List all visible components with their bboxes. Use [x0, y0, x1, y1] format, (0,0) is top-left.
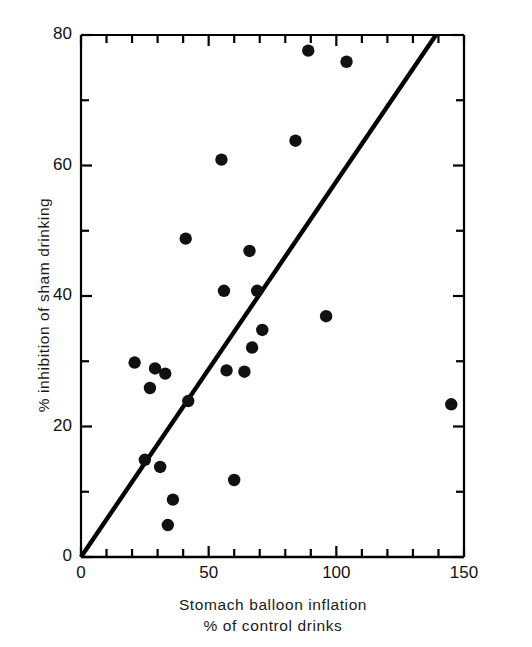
- data-point: [228, 474, 240, 486]
- data-point: [302, 44, 314, 56]
- x-tick-label: 150: [434, 563, 494, 583]
- data-point: [215, 153, 227, 165]
- data-point: [220, 364, 232, 376]
- data-point: [159, 367, 171, 379]
- data-point: [251, 285, 263, 297]
- data-point: [179, 232, 191, 244]
- y-tick-label: 80: [30, 24, 72, 44]
- x-axis-title-line2: % of control drinks: [81, 615, 465, 636]
- axes-frame: [81, 35, 464, 557]
- scatter-plot-figure: 806040200 050100150 % inhibition of sham…: [0, 0, 532, 647]
- data-point: [243, 245, 255, 257]
- data-point: [139, 454, 151, 466]
- data-point: [218, 285, 230, 297]
- data-point: [320, 310, 332, 322]
- data-point: [144, 382, 156, 394]
- data-point: [238, 365, 250, 377]
- x-axis-title: Stomach balloon inflation % of control d…: [81, 594, 465, 636]
- data-point: [256, 324, 268, 336]
- y-axis-title: % inhibition of sham drinking: [35, 175, 53, 435]
- data-point: [128, 356, 140, 368]
- x-tick-label: 50: [179, 563, 239, 583]
- data-point: [246, 341, 258, 353]
- plot-canvas: [0, 0, 532, 647]
- data-point: [167, 493, 179, 505]
- data-point: [162, 519, 174, 531]
- x-tick-label: 0: [51, 563, 111, 583]
- data-point: [445, 398, 457, 410]
- tick-marks: [81, 35, 464, 557]
- data-point: [340, 56, 352, 68]
- data-point: [289, 135, 301, 147]
- x-tick-label: 100: [306, 563, 366, 583]
- y-tick-label: 60: [30, 155, 72, 175]
- data-points: [128, 44, 457, 531]
- data-point: [154, 461, 166, 473]
- y-axis-title-text: % inhibition of sham drinking: [35, 198, 52, 413]
- data-point: [182, 395, 194, 407]
- x-axis-title-line1: Stomach balloon inflation: [81, 594, 465, 615]
